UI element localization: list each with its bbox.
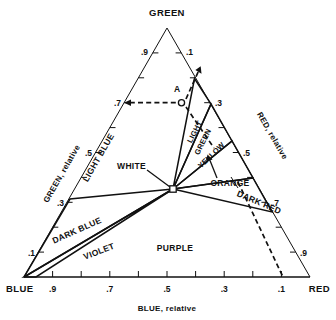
- bottom-tick-labels: .9 .7 .5 .3 .1: [49, 284, 285, 294]
- right-axis-title: RED, relative: [255, 110, 289, 161]
- bottom-tick-5: .5: [163, 284, 170, 294]
- right-tick-9: .9: [300, 248, 307, 258]
- point-a-marker[interactable]: [178, 100, 184, 106]
- white-leader-line: [147, 170, 170, 187]
- vertex-label-red: RED: [309, 283, 330, 294]
- region-label-orange: ORANGE: [210, 178, 249, 188]
- bottom-tick-9: .9: [49, 284, 56, 294]
- white-point-group: WHITE: [117, 161, 176, 192]
- apex-tick-right: .1: [186, 47, 193, 57]
- bottom-tick-1: .1: [278, 284, 285, 294]
- bottom-tick-3: .3: [221, 284, 228, 294]
- left-tick-5: .5: [85, 148, 92, 158]
- bottom-axis-title: BLUE, relative: [138, 304, 197, 313]
- left-axis-title: GREEN, relative: [42, 143, 83, 204]
- vertex-label-green: GREEN: [149, 7, 185, 18]
- bottom-axis-ticks: [53, 271, 282, 277]
- left-tick-1: .1: [28, 248, 35, 258]
- bottom-tick-7: .7: [106, 284, 113, 294]
- apex-tick-left: .9: [141, 47, 148, 57]
- diagram-canvas: A WHITE GREEN BLUE RED .9 .1 .9 .7 .5: [0, 0, 336, 320]
- white-point-marker[interactable]: [170, 186, 176, 192]
- right-tick-5: .5: [243, 148, 250, 158]
- vertex-label-blue: BLUE: [6, 283, 33, 294]
- dashed-to-red-axis: [186, 70, 199, 99]
- ternary-color-diagram: A WHITE GREEN BLUE RED .9 .1 .9 .7 .5: [0, 0, 336, 320]
- left-tick-3: .3: [57, 198, 64, 208]
- point-a-construction-lines: [124, 66, 283, 277]
- point-a-label: A: [174, 84, 180, 94]
- white-point-label: WHITE: [117, 161, 146, 171]
- region-label-purple: PURPLE: [157, 243, 193, 253]
- right-tick-3: .3: [215, 98, 222, 108]
- left-tick-7: .7: [114, 98, 121, 108]
